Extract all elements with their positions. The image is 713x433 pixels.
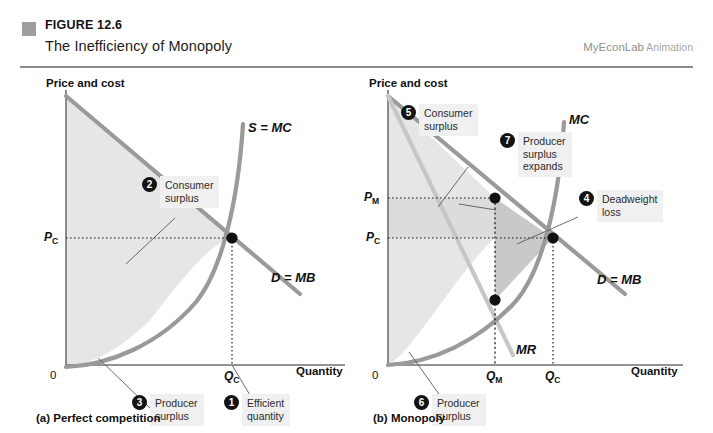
- callout-number-4: 4: [579, 191, 594, 206]
- x-axis-title-b: Quantity: [631, 365, 678, 377]
- curve-label-marginal-cost-b: MC: [569, 112, 589, 127]
- myeconlab-animation-label: Animation: [644, 41, 693, 53]
- myeconlab-brand: MyEconLab: [583, 41, 644, 53]
- equilibrium-point-a: [226, 232, 237, 243]
- y-tick-price-competitive-b: PC: [366, 230, 380, 246]
- y-tick-price-competitive-a: PC: [44, 230, 58, 246]
- y-tick-price-monopoly-b: PM: [364, 190, 379, 206]
- callout-deadweight-loss-b: 4 Deadweight loss: [579, 190, 663, 222]
- curve-label-supply-a: S = MC: [248, 120, 292, 135]
- callout-consumer-surplus-b: 5 Consumer surplus: [401, 104, 478, 136]
- origin-label-b: 0: [372, 369, 378, 381]
- callout-label-producer-surplus-expands-b: Producer surplus expands: [518, 132, 572, 177]
- chart-perfect-competition: Price and cost Quantity 0 PC QC S = MC D…: [0, 72, 356, 433]
- y-axis-title-b: Price and cost: [369, 77, 448, 89]
- callout-number-2: 2: [142, 177, 157, 192]
- chart-monopoly: Price and cost Quantity 0 PM PC QM QC MC…: [353, 72, 709, 433]
- monopoly-price-point-b: [489, 192, 500, 203]
- curve-label-demand-b: D = MB: [597, 272, 641, 287]
- region-producer-surplus-b: [388, 238, 495, 365]
- callout-number-1: 1: [224, 395, 239, 410]
- y-axis-title-a: Price and cost: [46, 77, 125, 89]
- x-tick-quantity-monopoly-b: QM: [486, 369, 502, 385]
- callout-label-deadweight-loss-b: Deadweight loss: [597, 190, 663, 222]
- header-divider: [20, 66, 693, 68]
- callout-number-3: 3: [132, 395, 147, 410]
- figure-marker-icon: [22, 22, 36, 36]
- callout-number-7: 7: [500, 133, 515, 148]
- callout-label-consumer-surplus-b: Consumer surplus: [419, 104, 478, 136]
- figure-title: The Inefficiency of Monopoly: [45, 38, 232, 54]
- mr-equals-mc-point-b: [489, 294, 500, 305]
- curve-label-demand-a: D = MB: [271, 270, 315, 285]
- figure-header: FIGURE 12.6 The Inefficiency of Monopoly…: [0, 0, 713, 68]
- panel-caption-a: (a) Perfect competition: [36, 412, 161, 424]
- figure-number: FIGURE 12.6: [45, 18, 122, 32]
- callout-consumer-surplus-a: 2 Consumer surplus: [142, 176, 219, 208]
- origin-label-a: 0: [50, 369, 56, 381]
- callout-producer-surplus-expands-b: 7 Producer surplus expands: [500, 132, 572, 177]
- curve-label-marginal-revenue-b: MR: [516, 342, 536, 357]
- x-axis-title-a: Quantity: [296, 365, 343, 377]
- callout-number-5: 5: [401, 105, 416, 120]
- competitive-equilibrium-point-b: [547, 232, 558, 243]
- x-tick-quantity-competitive-a: QC: [224, 369, 239, 385]
- callout-label-efficient-quantity-a: Efficient quantity: [242, 394, 290, 426]
- callout-efficient-quantity-a: 1 Efficient quantity: [224, 394, 290, 426]
- callout-label-consumer-surplus-a: Consumer surplus: [160, 176, 219, 208]
- myeconlab-animation-link[interactable]: MyEconLab Animation: [583, 41, 693, 53]
- x-tick-quantity-competitive-b: QC: [545, 369, 560, 385]
- panel-caption-b: (b) Monopoly: [373, 412, 445, 424]
- region-producer-surplus-a: [66, 238, 232, 367]
- callout-number-6: 6: [414, 395, 429, 410]
